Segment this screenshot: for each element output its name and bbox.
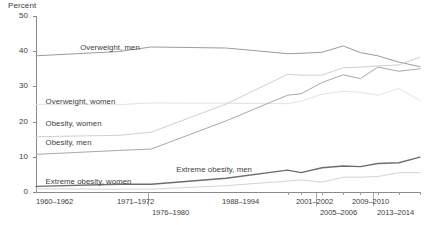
series-label-extreme-obesity-men: Extreme obesity, men (176, 165, 252, 174)
x-axis-label-7: 2013–2014 (377, 208, 414, 217)
x-tick-mark-10 (399, 192, 400, 195)
x-axis-label-0: 1960–1962 (36, 197, 73, 206)
series-label-overweight-men: Overweight, men (80, 43, 140, 52)
y-tick-label-50: 50 (2, 12, 28, 20)
y-tick-label-10: 10 (2, 153, 28, 161)
series-label-overweight-women: Overweight, women (46, 97, 116, 106)
y-tick-label-20: 20 (2, 118, 28, 126)
y-tick-mark-0 (33, 192, 37, 193)
y-tick-label-40: 40 (2, 47, 28, 55)
series-line-obesity-men (36, 67, 420, 154)
x-tick-mark-6 (322, 192, 323, 195)
x-tick-mark-7 (343, 192, 344, 195)
x-tick-mark-8 (360, 192, 361, 195)
x-axis-label-4: 2001–2002 (296, 197, 333, 206)
x-axis-line (36, 192, 420, 193)
x-axis-label-1: 1971–1972 (117, 197, 154, 206)
x-tick-mark-11 (420, 192, 421, 195)
y-tick-label-0: 0 (2, 188, 28, 196)
x-axis-label-6: 2009–2010 (352, 197, 389, 206)
series-label-obesity-men: Obesity, men (46, 138, 92, 147)
series-label-obesity-women: Obesity, women (46, 119, 102, 128)
series-label-extreme-obesity-women: Extreme obesity, women (46, 177, 132, 186)
y-axis-unit-label: Percent (8, 1, 36, 10)
x-axis-label-2: 1976–1980 (152, 208, 189, 217)
x-tick-mark-9 (378, 192, 379, 195)
obesity-trends-line-chart: Percent 50403020100 1960–19621971–197219… (0, 0, 428, 225)
y-tick-label-30: 30 (2, 82, 28, 90)
x-axis-label-5: 2005–2006 (320, 208, 357, 217)
x-tick-mark-4 (288, 192, 289, 195)
x-axis-label-3: 1988–1994 (222, 197, 259, 206)
x-tick-mark-5 (301, 192, 302, 195)
